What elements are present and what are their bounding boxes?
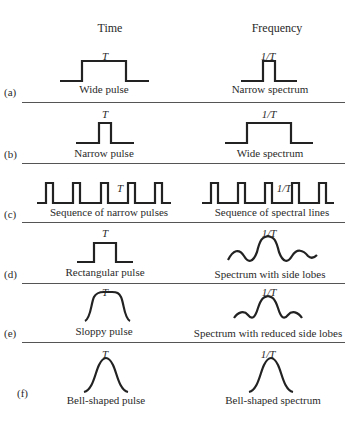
freq-caption: Bell-shaped spectrum xyxy=(183,394,362,406)
time-caption: Bell-shaped pulse xyxy=(16,394,196,406)
bell-spectrum-waveform xyxy=(0,0,362,431)
